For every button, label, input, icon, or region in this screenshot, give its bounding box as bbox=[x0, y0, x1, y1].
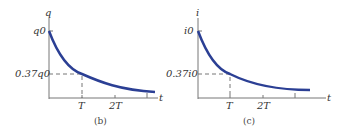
y-mark-label: 0.37i0 bbox=[166, 68, 198, 79]
decay-curve bbox=[49, 31, 155, 92]
x-tick-T: T bbox=[226, 100, 234, 111]
figure: q q0 0.37q0 T 2T t (b) i i0 0.37i0 T 2T … bbox=[0, 0, 348, 136]
time-constant-guide bbox=[49, 74, 82, 98]
y-axis-label: i bbox=[196, 7, 199, 18]
caption-b: (b) bbox=[94, 116, 107, 126]
y-start-label: i0 bbox=[184, 25, 194, 36]
x-tick-2T: 2T bbox=[256, 100, 271, 111]
x-tick-2T: 2T bbox=[108, 100, 123, 111]
time-constant-guide bbox=[198, 74, 230, 98]
decay-curve bbox=[198, 31, 310, 90]
caption-c: (c) bbox=[243, 116, 255, 126]
y-start-label: q0 bbox=[33, 25, 46, 36]
y-axis-label: q bbox=[45, 7, 51, 18]
x-axis-label: t bbox=[327, 92, 332, 103]
panel-c: i i0 0.37i0 T 2T t (c) bbox=[166, 7, 332, 126]
panel-b: q q0 0.37q0 T 2T t (b) bbox=[15, 7, 164, 126]
x-axis-label: t bbox=[159, 92, 164, 103]
y-mark-label: 0.37q0 bbox=[15, 68, 51, 79]
x-tick-T: T bbox=[78, 100, 86, 111]
